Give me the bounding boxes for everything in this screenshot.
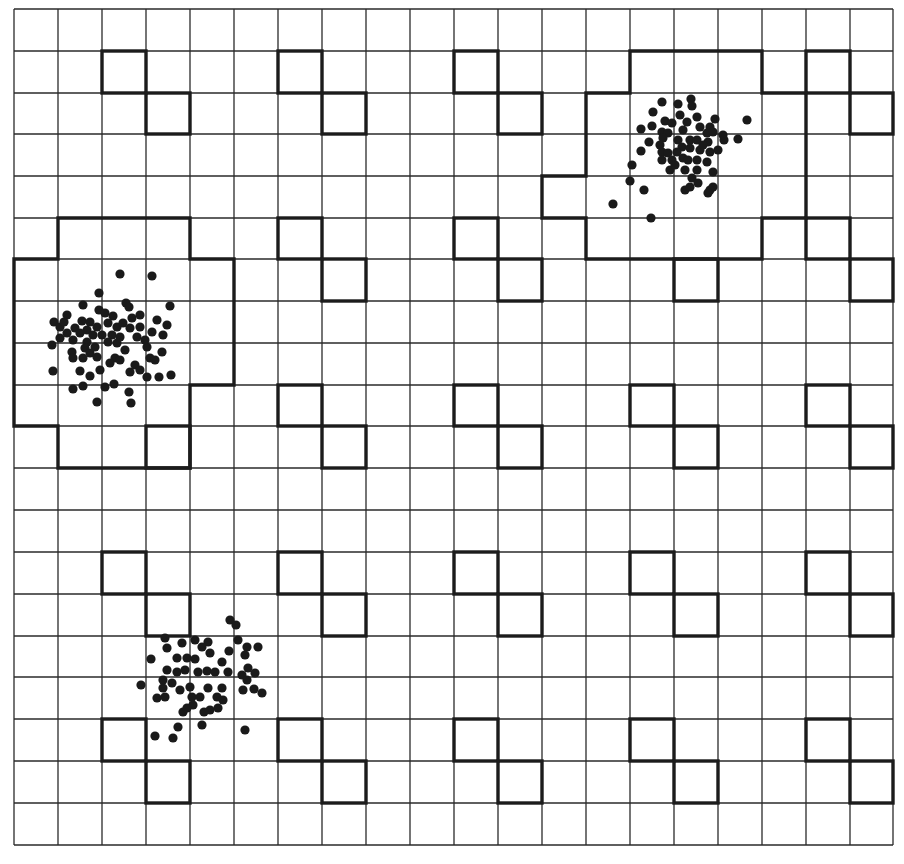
data-point <box>135 365 144 374</box>
data-point <box>195 692 204 701</box>
data-point <box>103 318 112 327</box>
data-point <box>703 188 712 197</box>
data-point <box>242 642 251 651</box>
data-point <box>75 366 84 375</box>
motif-cell <box>146 594 190 636</box>
data-point <box>675 110 684 119</box>
motif-cell <box>322 259 366 301</box>
data-point <box>147 327 156 336</box>
data-point <box>68 384 77 393</box>
data-point <box>242 675 251 684</box>
motif-cell <box>674 594 718 636</box>
data-point <box>103 337 112 346</box>
motif-cell <box>498 761 542 803</box>
data-point <box>75 328 84 337</box>
data-point <box>692 165 701 174</box>
data-point <box>92 322 101 331</box>
data-point <box>190 654 199 663</box>
data-point <box>223 667 232 676</box>
data-point <box>135 310 144 319</box>
data-point <box>250 668 259 677</box>
data-point <box>68 353 77 362</box>
data-point <box>158 683 167 692</box>
motif-cell <box>102 552 146 594</box>
motif-cell <box>498 426 542 468</box>
data-point <box>636 146 645 155</box>
motif-cell <box>322 594 366 636</box>
data-point <box>92 397 101 406</box>
motif-cell <box>102 51 146 93</box>
data-point <box>115 269 124 278</box>
data-point <box>249 684 258 693</box>
motif-cell <box>278 552 322 594</box>
data-point <box>708 167 717 176</box>
data-point <box>187 692 196 701</box>
data-point <box>165 301 174 310</box>
data-point <box>197 642 206 651</box>
data-point <box>124 302 133 311</box>
data-point <box>240 650 249 659</box>
data-point <box>257 688 266 697</box>
data-point <box>115 355 124 364</box>
data-point <box>158 330 167 339</box>
data-point <box>124 387 133 396</box>
data-point <box>683 155 692 164</box>
data-point <box>160 633 169 642</box>
data-point <box>152 693 161 702</box>
point-clusters <box>47 94 751 742</box>
motif-cell <box>146 426 190 468</box>
motif-cell <box>674 259 718 301</box>
data-point <box>231 620 240 629</box>
data-point <box>136 680 145 689</box>
motif-cell <box>806 719 850 761</box>
motif-cell <box>454 719 498 761</box>
grid-diagram <box>0 0 904 864</box>
motif-cell <box>674 426 718 468</box>
data-point <box>657 97 666 106</box>
data-point <box>238 685 247 694</box>
data-point <box>695 122 704 131</box>
data-point <box>213 703 222 712</box>
data-point <box>157 347 166 356</box>
motif-cell <box>674 761 718 803</box>
motif-cell <box>278 719 322 761</box>
data-point <box>180 665 189 674</box>
data-point <box>742 115 751 124</box>
data-point <box>112 338 121 347</box>
data-point <box>172 653 181 662</box>
motif-cell <box>322 426 366 468</box>
motif-cell <box>322 761 366 803</box>
data-point <box>210 667 219 676</box>
data-point <box>100 382 109 391</box>
data-point <box>682 117 691 126</box>
data-point <box>154 372 163 381</box>
motif-cell <box>850 426 893 468</box>
data-point <box>146 654 155 663</box>
data-point <box>109 379 118 388</box>
data-point <box>657 155 666 164</box>
data-point <box>77 316 86 325</box>
data-point <box>78 300 87 309</box>
motif-cell <box>498 93 542 134</box>
data-point <box>132 332 141 341</box>
data-point <box>218 695 227 704</box>
data-point <box>97 330 106 339</box>
data-point <box>625 176 634 185</box>
data-point <box>655 140 664 149</box>
data-point <box>177 638 186 647</box>
data-point <box>253 642 262 651</box>
data-point <box>162 643 171 652</box>
data-point <box>678 125 687 134</box>
data-point <box>150 731 159 740</box>
data-point <box>692 155 701 164</box>
data-point <box>127 313 136 322</box>
left-cluster <box>47 269 175 407</box>
data-point <box>152 315 161 324</box>
data-point <box>175 685 184 694</box>
data-point <box>644 137 653 146</box>
data-point <box>647 121 656 130</box>
data-point <box>685 182 694 191</box>
data-point <box>608 199 617 208</box>
data-point <box>78 381 87 390</box>
data-point <box>55 333 64 342</box>
